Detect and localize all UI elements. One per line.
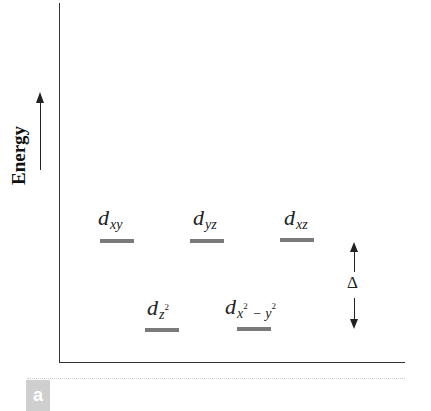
delta-arrow-line-bottom	[354, 298, 355, 320]
energy-level-dx2-y2	[237, 327, 271, 331]
panel-label-badge: a	[26, 380, 50, 411]
splitting-energy-label: Δ	[347, 273, 358, 293]
orbital-label-dyz: dyz	[193, 205, 217, 231]
energy-level-dz2	[145, 328, 179, 332]
energy-arrow-line	[40, 100, 41, 170]
divider	[27, 378, 405, 379]
energy-level-dyz	[190, 239, 224, 243]
y-axis	[59, 3, 60, 363]
energy-arrow-up-icon	[36, 92, 44, 103]
x-axis	[60, 362, 405, 363]
orbital-label-dz2: dz2	[147, 295, 169, 321]
energy-level-dxz	[280, 238, 314, 242]
orbital-label-dxy: dxy	[98, 205, 122, 231]
orbital-label-dxz: dxz	[284, 205, 308, 231]
energy-level-dxy	[100, 239, 134, 243]
delta-arrow-down-icon	[350, 319, 358, 329]
orbital-label-dx2-y2: dx2 − y2	[225, 294, 276, 320]
y-axis-label: Energy	[8, 126, 30, 185]
delta-arrow-line-top	[354, 250, 355, 272]
